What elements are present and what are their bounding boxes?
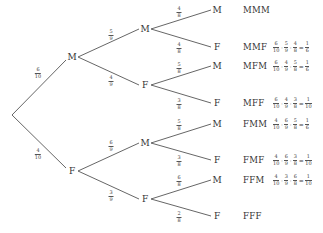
- denominator: 6: [306, 67, 309, 72]
- equals-operator: =: [299, 177, 304, 184]
- numerator: 4: [36, 148, 39, 153]
- outcome-label: FMM: [243, 119, 267, 129]
- fraction: 16: [305, 60, 309, 72]
- denominator: 8: [177, 49, 180, 54]
- numerator: 5: [285, 41, 288, 46]
- numerator: 3: [177, 98, 180, 103]
- denominator: 8: [177, 13, 180, 18]
- node-l3-5: F: [214, 156, 220, 165]
- denominator: 10: [305, 181, 311, 186]
- denominator: 8: [294, 161, 297, 166]
- numerator: 1: [306, 60, 309, 65]
- numerator: 5: [177, 119, 180, 124]
- fraction: 610: [273, 60, 279, 72]
- fraction: 58: [293, 118, 297, 130]
- numerator: 4: [275, 174, 278, 179]
- node-l3-0: M: [212, 6, 221, 15]
- times-operator: ·: [281, 177, 283, 184]
- times-operator: ·: [281, 100, 283, 107]
- outcome-label: FMF: [243, 155, 264, 165]
- node-l3-7: F: [214, 212, 220, 221]
- fraction: 38: [293, 97, 297, 109]
- denominator: 10: [273, 104, 279, 109]
- denominator: 8: [294, 48, 297, 53]
- denominator: 10: [273, 125, 279, 130]
- numerator: 5: [177, 62, 180, 67]
- node-l3-1: F: [214, 43, 220, 52]
- denominator: 8: [294, 104, 297, 109]
- denominator: 10: [305, 161, 311, 166]
- node-l3-2: M: [212, 62, 221, 71]
- times-operator: ·: [281, 121, 283, 128]
- outcome-label: FFM: [243, 175, 264, 185]
- equals-operator: =: [299, 44, 304, 51]
- fraction: 69: [284, 154, 288, 166]
- node-l2-0: M: [140, 25, 149, 34]
- denominator: 10: [35, 155, 41, 160]
- fraction: 410: [273, 154, 279, 166]
- node-l2-1: F: [142, 81, 148, 90]
- outcome-calculation: 610·49·38=110: [273, 97, 312, 109]
- denominator: 10: [305, 104, 311, 109]
- fraction: 59: [284, 41, 288, 53]
- denominator: 8: [177, 182, 180, 187]
- fraction: 110: [305, 97, 311, 109]
- numerator: 6: [109, 140, 112, 145]
- numerator: 4: [294, 41, 297, 46]
- fraction: 110: [305, 174, 311, 186]
- branch-l1-1: [12, 115, 66, 168]
- denominator: 9: [109, 197, 112, 202]
- outcome-calculation: 410·69·58=16: [273, 118, 309, 130]
- denominator: 9: [285, 161, 288, 166]
- times-operator: ·: [281, 44, 283, 51]
- numerator: 5: [294, 60, 297, 65]
- numerator: 1: [307, 154, 310, 159]
- denominator: 8: [294, 67, 297, 72]
- prob-label-l3-5: 38: [177, 155, 182, 167]
- numerator: 1: [307, 97, 310, 102]
- denominator: 6: [306, 125, 309, 130]
- fraction: 48: [293, 41, 297, 53]
- numerator: 6: [36, 67, 39, 72]
- denominator: 8: [177, 162, 180, 167]
- prob-label-l3-2: 58: [177, 62, 182, 74]
- prob-label-l2-0: 59: [109, 29, 114, 41]
- fraction: 610: [273, 97, 279, 109]
- numerator: 4: [285, 97, 288, 102]
- node-l1-m: M: [67, 53, 76, 62]
- denominator: 8: [177, 69, 180, 74]
- denominator: 9: [109, 147, 112, 152]
- outcome-calculation: 410·39·68=110: [273, 174, 312, 186]
- fraction: 58: [293, 60, 297, 72]
- denominator: 8: [294, 181, 297, 186]
- prob-label-l1-0: 610: [35, 67, 41, 79]
- times-operator: ·: [281, 63, 283, 70]
- numerator: 3: [109, 190, 112, 195]
- denominator: 8: [177, 126, 180, 131]
- fraction: 410: [273, 174, 279, 186]
- denominator: 9: [285, 181, 288, 186]
- times-operator: ·: [281, 157, 283, 164]
- numerator: 6: [275, 97, 278, 102]
- numerator: 5: [109, 29, 112, 34]
- prob-label-l3-4: 58: [177, 119, 182, 131]
- prob-label-l3-1: 48: [177, 42, 182, 54]
- numerator: 6: [275, 60, 278, 65]
- prob-label-l2-3: 39: [109, 190, 114, 202]
- numerator: 1: [307, 174, 310, 179]
- outcome-label: MFF: [243, 98, 264, 108]
- fraction: 69: [284, 118, 288, 130]
- fraction: 610: [273, 41, 279, 53]
- numerator: 4: [275, 154, 278, 159]
- numerator: 4: [109, 75, 112, 80]
- denominator: 9: [109, 82, 112, 87]
- numerator: 5: [294, 118, 297, 123]
- numerator: 4: [177, 42, 180, 47]
- outcome-label: MMM: [243, 5, 270, 15]
- numerator: 4: [177, 6, 180, 11]
- outcome-label: MMF: [243, 42, 267, 52]
- node-l2-3: F: [142, 195, 148, 204]
- fraction: 38: [293, 154, 297, 166]
- numerator: 1: [306, 118, 309, 123]
- numerator: 3: [294, 97, 297, 102]
